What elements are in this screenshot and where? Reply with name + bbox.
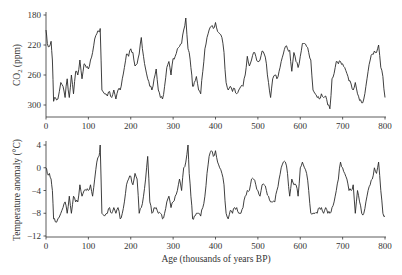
y-tick-label: 220 (28, 40, 42, 50)
y-tick-label: −12 (27, 231, 41, 241)
x-tick-label: 800 (378, 121, 392, 131)
temperature-series-line (46, 145, 385, 222)
temp-y-label: Temperature anomaly (°C) (12, 139, 23, 241)
co2-y-label: CO2 (ppm) (12, 44, 23, 86)
x-tick-label: 500 (251, 121, 265, 131)
x-tick-label: 200 (124, 121, 138, 131)
x-tick-label: 600 (294, 121, 308, 131)
x-tick-label: 100 (82, 241, 96, 251)
y-tick-label: 4 (37, 140, 42, 150)
x-tick-label: 0 (44, 241, 49, 251)
chart-canvas: 300260220180 0100200300400500600700800 C… (0, 0, 402, 275)
temperature-plot: 40−4−8−12 0100200300400500600700800 Temp… (12, 139, 392, 265)
y-tick-label: −4 (31, 186, 41, 196)
x-tick-label: 300 (166, 121, 180, 131)
x-tick-label: 700 (336, 241, 350, 251)
x-tick-label: 100 (82, 121, 96, 131)
co2-plot: 300260220180 0100200300400500600700800 C… (12, 10, 392, 131)
x-tick-label: 600 (294, 241, 308, 251)
x-tick-label: 200 (124, 241, 138, 251)
y-tick-label: 180 (28, 10, 42, 20)
y-tick-label: 300 (28, 100, 42, 110)
x-tick-label: 700 (336, 121, 350, 131)
y-tick-label: 260 (28, 70, 42, 80)
x-tick-label: 400 (209, 241, 223, 251)
x-tick-label: 500 (251, 241, 265, 251)
x-tick-label: 400 (209, 121, 223, 131)
y-tick-label: −8 (31, 208, 41, 218)
y-tick-label: 0 (37, 163, 42, 173)
x-axis-label: Age (thousands of years BP) (161, 254, 270, 265)
x-tick-label: 0 (44, 121, 49, 131)
co2-series-line (46, 18, 385, 109)
x-tick-label: 300 (166, 241, 180, 251)
x-tick-label: 800 (378, 241, 392, 251)
